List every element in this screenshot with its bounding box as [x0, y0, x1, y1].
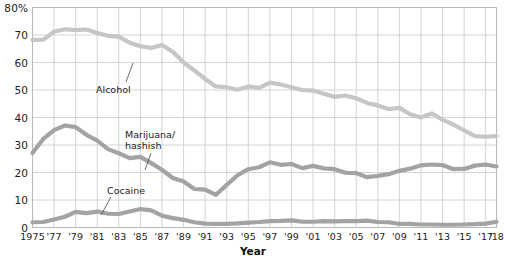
x-tick-label: '97	[260, 232, 280, 242]
x-tick-label: '77	[44, 232, 64, 242]
x-tick-label: '09	[389, 232, 409, 242]
y-tick-label: 80%	[0, 3, 28, 14]
y-tick-label: 60	[0, 58, 28, 69]
y-tick-label: 30	[0, 140, 28, 151]
series-line-marijuana-hashish	[33, 125, 497, 194]
x-tick-label: '79	[66, 232, 86, 242]
y-tick-label: 70	[0, 30, 28, 41]
x-tick-label: '89	[174, 232, 194, 242]
x-tick-label: '95	[238, 232, 258, 242]
x-tick-label: '83	[109, 232, 129, 242]
x-tick-label: '07	[368, 232, 388, 242]
x-tick-label: '85	[130, 232, 150, 242]
annotation-label-alcohol: Alcohol	[96, 84, 131, 95]
x-tick-label: '18	[487, 232, 506, 242]
x-tick-label: '11	[411, 232, 431, 242]
x-tick-label: '01	[303, 232, 323, 242]
line-chart: 80%706050403020100 1975'77'79'81'83'85'8…	[0, 0, 506, 260]
x-tick-label: '99	[281, 232, 301, 242]
x-tick-label: '91	[195, 232, 215, 242]
grid-lines	[33, 8, 497, 228]
y-tick-label: 10	[0, 195, 28, 206]
x-tick-label: '05	[346, 232, 366, 242]
annotation-label-marijuana: Marijuana/ hashish	[125, 129, 175, 151]
annotation-leader-alcohol	[126, 63, 133, 82]
x-axis-title: Year	[0, 246, 506, 257]
x-tick-label: '93	[217, 232, 237, 242]
y-tick-label: 40	[0, 113, 28, 124]
chart-canvas	[0, 0, 506, 260]
x-tick-label: 1975	[18, 232, 48, 242]
y-tick-label: 50	[0, 85, 28, 96]
series-line-alcohol	[33, 29, 497, 137]
x-tick-label: '87	[152, 232, 172, 242]
y-tick-label: 20	[0, 168, 28, 179]
x-tick-label: '81	[87, 232, 107, 242]
series-line-cocaine	[33, 209, 497, 225]
data-series-group	[33, 29, 497, 225]
x-tick-label: '15	[454, 232, 474, 242]
x-tick-label: '13	[433, 232, 453, 242]
annotation-label-cocaine: Cocaine	[107, 185, 145, 196]
x-tick-label: '03	[325, 232, 345, 242]
